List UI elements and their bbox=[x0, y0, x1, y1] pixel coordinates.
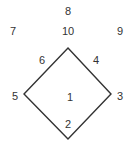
label-1: 1 bbox=[67, 92, 73, 103]
label-10: 10 bbox=[62, 26, 74, 37]
label-7: 7 bbox=[10, 26, 16, 37]
label-4: 4 bbox=[93, 55, 99, 66]
label-2: 2 bbox=[65, 119, 71, 130]
label-5: 5 bbox=[12, 91, 18, 102]
label-3: 3 bbox=[117, 91, 123, 102]
label-8: 8 bbox=[65, 6, 71, 17]
label-9: 9 bbox=[117, 26, 123, 37]
label-6: 6 bbox=[39, 55, 45, 66]
